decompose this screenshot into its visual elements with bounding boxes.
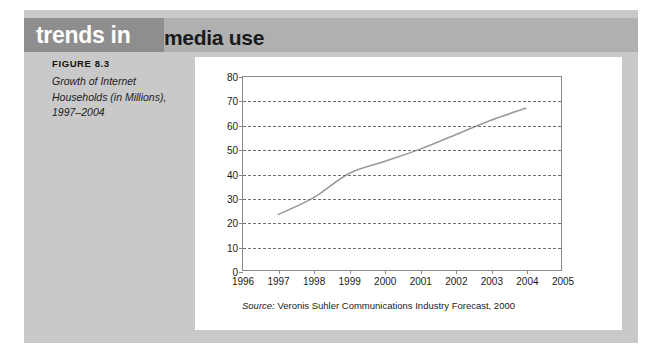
y-axis-label-80: 80	[227, 72, 238, 83]
x-tickmark-2004	[527, 270, 528, 274]
y-tickmark-40	[239, 175, 243, 176]
chart-card: 0102030405060708019961997199819992000200…	[195, 57, 622, 330]
x-tickmark-1997	[279, 270, 280, 274]
figure-caption-line-2: Households (in Millions),	[52, 90, 202, 106]
chart-source-note: Source: Veronis Suhler Communications In…	[242, 300, 515, 311]
figure-caption-line-3: 1997–2004	[52, 105, 202, 121]
x-tickmark-2000	[385, 270, 386, 274]
x-tickmark-1999	[350, 270, 351, 274]
chart-plot-area: 0102030405060708019961997199819992000200…	[242, 76, 562, 271]
figure-number-label: FIGURE 8.3	[52, 58, 110, 69]
x-axis-label-1998: 1998	[303, 276, 325, 287]
page-root: trends in media use FIGURE 8.3 Growth of…	[0, 0, 662, 356]
x-axis-label-2001: 2001	[410, 276, 432, 287]
y-tickmark-60	[239, 126, 243, 127]
gridline-y-40	[243, 175, 561, 176]
y-tickmark-10	[239, 248, 243, 249]
figure-caption: Growth of Internet Households (in Millio…	[52, 74, 202, 121]
header-title-secondary: media use	[164, 23, 264, 53]
x-tickmark-1998	[314, 270, 315, 274]
x-axis-label-1997: 1997	[267, 276, 289, 287]
y-axis-label-20: 20	[227, 218, 238, 229]
source-prefix: Source:	[242, 300, 275, 311]
gridline-y-10	[243, 248, 561, 249]
x-axis-label-2005: 2005	[552, 276, 574, 287]
x-axis-label-1996: 1996	[232, 276, 254, 287]
x-axis-label-2002: 2002	[445, 276, 467, 287]
x-axis-label-2004: 2004	[516, 276, 538, 287]
x-tickmark-2001	[421, 270, 422, 274]
y-axis-label-50: 50	[227, 145, 238, 156]
x-axis-label-2003: 2003	[481, 276, 503, 287]
x-axis-label-2000: 2000	[374, 276, 396, 287]
y-tickmark-20	[239, 223, 243, 224]
x-axis-label-1999: 1999	[339, 276, 361, 287]
figure-caption-line-1: Growth of Internet	[52, 74, 202, 90]
line-series	[243, 77, 561, 270]
y-tickmark-30	[239, 199, 243, 200]
x-tickmark-2002	[456, 270, 457, 274]
figure-panel: trends in media use FIGURE 8.3 Growth of…	[24, 10, 638, 343]
trends-header-band: trends in media use	[24, 18, 638, 52]
y-tickmark-50	[239, 150, 243, 151]
header-title-primary: trends in	[36, 20, 130, 50]
y-tickmark-0	[239, 272, 243, 273]
source-text: Veronis Suhler Communications Industry F…	[277, 300, 515, 311]
y-axis-label-10: 10	[227, 242, 238, 253]
y-axis-label-30: 30	[227, 193, 238, 204]
y-axis-label-60: 60	[227, 120, 238, 131]
y-tickmark-70	[239, 101, 243, 102]
gridline-y-20	[243, 223, 561, 224]
y-axis-label-70: 70	[227, 96, 238, 107]
y-tickmark-80	[239, 77, 243, 78]
gridline-y-50	[243, 150, 561, 151]
y-axis-label-40: 40	[227, 169, 238, 180]
gridline-y-30	[243, 199, 561, 200]
gridline-y-60	[243, 126, 561, 127]
gridline-y-70	[243, 101, 561, 102]
x-tickmark-2003	[492, 270, 493, 274]
